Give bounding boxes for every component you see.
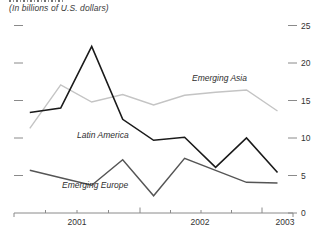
y-axis-label-15: 15 [301, 96, 311, 106]
y-axis-label-10: 10 [301, 133, 311, 143]
y-axis-label-0: 0 [301, 208, 306, 218]
series-line-emerging-asia [30, 85, 278, 129]
y-axis-label-5: 5 [301, 171, 306, 181]
series-label-emerging-asia: Emerging Asia [192, 73, 247, 83]
series-line-latin-america [30, 47, 278, 173]
series-label-emerging-europe: Emerging Europe [62, 180, 128, 190]
chart-figure: (In billions of U.S. dollars) 2520151050… [0, 0, 320, 248]
x-axis-label-2002: 2002 [191, 217, 210, 227]
x-axis-label-2003: 2003 [276, 217, 295, 227]
y-axis-label-25: 25 [301, 21, 311, 31]
line-chart-canvas: 2520151050200120022003 [0, 0, 320, 248]
y-axis-label-20: 20 [301, 58, 311, 68]
series-label-latin-america: Latin America [77, 130, 129, 140]
x-axis-label-2001: 2001 [68, 217, 87, 227]
series-line-emerging-europe [30, 158, 278, 196]
